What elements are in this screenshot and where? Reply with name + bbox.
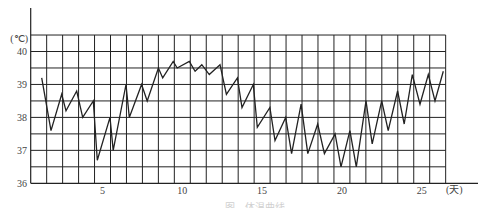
y-tick-labels: 3637383940 (17, 46, 27, 189)
x-tick-label: 25 (417, 185, 427, 196)
figure-caption: 图 体温曲线 (225, 201, 285, 208)
y-tick-label: 36 (17, 178, 27, 189)
x-axis-unit-label: (天) (446, 184, 463, 196)
temperature-line (42, 61, 444, 166)
x-tick-label: 20 (337, 185, 347, 196)
y-tick-label: 39 (17, 79, 27, 90)
x-tick-label: 15 (257, 185, 267, 196)
x-tick-label: 5 (100, 185, 105, 196)
y-axis-unit-label: (℃) (10, 33, 28, 45)
y-tick-label: 37 (17, 145, 27, 156)
x-tick-labels: 510152025 (100, 185, 427, 196)
x-tick-label: 10 (177, 185, 187, 196)
y-tick-label: 40 (17, 46, 27, 57)
temperature-chart: 3637383940 510152025 (℃) (天) 图 体温曲线 (0, 0, 489, 208)
y-tick-label: 38 (17, 112, 27, 123)
